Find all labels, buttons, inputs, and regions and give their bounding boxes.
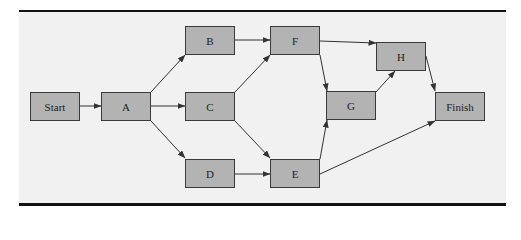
edge-f-h [320,41,376,43]
node-f: F [270,26,320,55]
node-c: C [185,92,235,121]
edge-f-g [320,55,327,91]
node-d: D [185,159,235,188]
edge-g-h [376,71,395,92]
edge-h-finish [426,56,435,91]
node-g: G [326,91,376,120]
bottom-rule [19,203,506,206]
edge-c-f [235,55,270,92]
node-finish: Finish [435,92,485,121]
edge-e-g [320,120,327,159]
edge-c-e [235,121,270,158]
edge-e-finish [320,121,435,174]
edge-a-b [151,55,185,92]
node-start: Start [30,92,80,121]
node-e: E [270,159,320,188]
node-a: A [101,92,151,121]
node-h: H [376,42,426,71]
edge-a-d [151,121,185,158]
node-b: B [185,26,235,55]
